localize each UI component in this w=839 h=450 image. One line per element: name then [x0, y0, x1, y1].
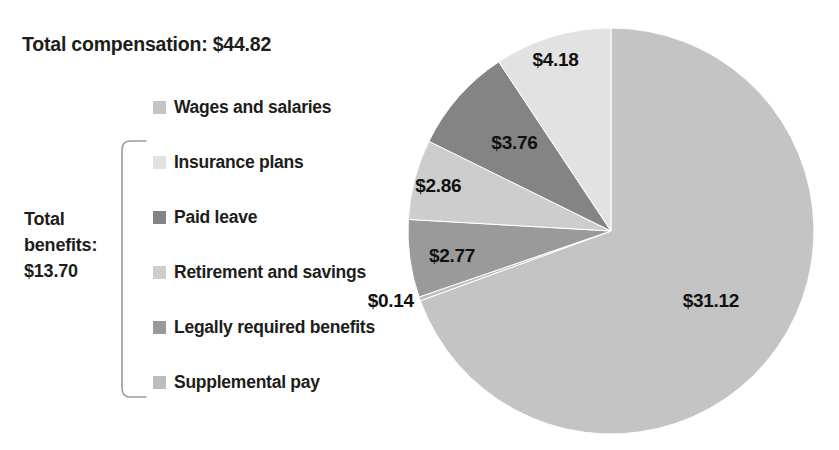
legend-item[interactable]: Retirement and savings [153, 263, 443, 318]
legend-item-label: Retirement and savings [174, 262, 366, 283]
benefits-bracket [120, 139, 148, 399]
pie-slice-label: $31.12 [683, 290, 739, 312]
pie-slice[interactable] [420, 28, 814, 434]
total-benefits-label: Total benefits: $13.70 [24, 206, 120, 284]
legend: Wages and salariesInsurance plansPaid le… [153, 98, 443, 428]
pie-slice-label: $4.18 [532, 49, 578, 71]
legend-swatch-icon [153, 211, 166, 224]
pie-slice[interactable] [429, 62, 611, 231]
pie-slice[interactable] [499, 28, 611, 231]
legend-item[interactable]: Paid leave [153, 208, 443, 263]
legend-item[interactable]: Insurance plans [153, 153, 443, 208]
legend-swatch-icon [153, 321, 166, 334]
pie-slice[interactable] [419, 231, 611, 301]
legend-swatch-icon [153, 156, 166, 169]
legend-item-label: Wages and salaries [174, 97, 331, 118]
legend-item[interactable]: Wages and salaries [153, 98, 443, 153]
total-benefits-line-3: $13.70 [24, 258, 120, 284]
chart-canvas: Total compensation: $44.82 Total benefit… [0, 0, 839, 450]
legend-item-label: Supplemental pay [174, 372, 320, 393]
legend-swatch-icon [153, 266, 166, 279]
pie-slice-label: $3.76 [491, 132, 537, 154]
legend-item-label: Insurance plans [174, 152, 304, 173]
total-benefits-line-2: benefits: [24, 232, 120, 258]
legend-item[interactable]: Legally required benefits [153, 318, 443, 373]
total-benefits-line-1: Total [24, 206, 120, 232]
legend-item-label: Legally required benefits [174, 317, 375, 338]
legend-swatch-icon [153, 101, 166, 114]
legend-swatch-icon [153, 376, 166, 389]
legend-item[interactable]: Supplemental pay [153, 373, 443, 428]
total-compensation-title: Total compensation: $44.82 [22, 33, 271, 56]
legend-item-label: Paid leave [174, 207, 257, 228]
